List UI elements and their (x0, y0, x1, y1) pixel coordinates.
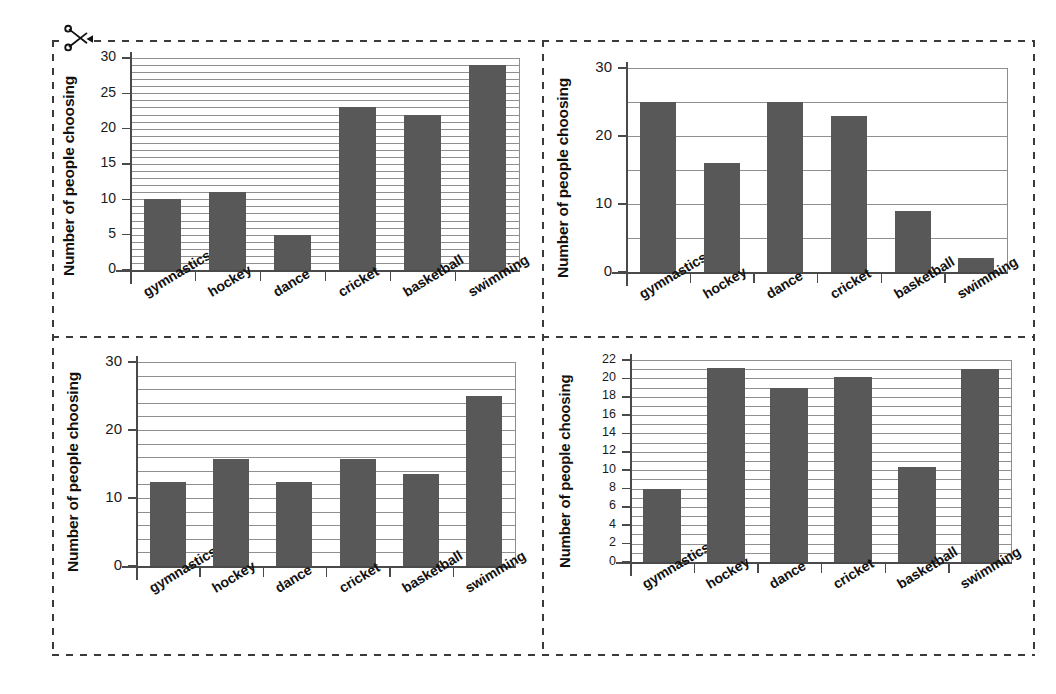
gridline (630, 544, 1012, 545)
gridline (130, 143, 520, 144)
y-axis-line (630, 354, 632, 576)
y-axis-label: Number of people choosing (554, 78, 572, 278)
bar (403, 474, 439, 566)
y-tick-mark (622, 561, 630, 563)
y-tick-label: 5 (86, 225, 116, 241)
gridline (130, 65, 520, 66)
bar (707, 368, 745, 562)
y-tick-mark (128, 565, 136, 567)
y-tick-mark (122, 234, 130, 236)
gridline (130, 171, 520, 172)
y-tick-label: 30 (582, 58, 612, 75)
gridline (130, 115, 520, 116)
y-tick-mark (122, 199, 130, 201)
gridline (130, 192, 520, 193)
y-tick-label: 0 (586, 554, 616, 568)
y-tick-label: 20 (92, 420, 122, 437)
gridline (136, 512, 516, 513)
x-tick-mark (325, 270, 326, 281)
y-axis-label: Number of people choosing (64, 372, 82, 572)
bar (898, 467, 936, 562)
gridline (630, 433, 1012, 434)
gridline (630, 397, 1012, 398)
worksheet-cut-frame: Number of people choosing051015202530gym… (52, 40, 1035, 656)
y-tick-label: 10 (582, 194, 612, 211)
y-tick-label: 16 (586, 407, 616, 421)
bar (276, 482, 312, 566)
y-tick-mark (122, 93, 130, 95)
bar (466, 396, 502, 566)
gridline (130, 213, 520, 214)
gridline (630, 369, 1012, 370)
gridline (130, 249, 520, 250)
gridline (630, 489, 1012, 490)
y-tick-label: 25 (86, 84, 116, 100)
bar (209, 192, 246, 270)
x-tick-mark (326, 566, 327, 577)
y-tick-mark (622, 414, 630, 416)
y-axis-label: Number of people choosing (556, 375, 573, 568)
x-tick-mark (757, 562, 758, 573)
bar (340, 459, 376, 566)
x-tick-mark (263, 566, 264, 577)
y-tick-mark (618, 135, 626, 137)
y-tick-mark (128, 497, 136, 499)
gridline (130, 185, 520, 186)
gridline (130, 221, 520, 222)
y-tick-label: 15 (86, 154, 116, 170)
gridline (130, 122, 520, 123)
gridline (130, 150, 520, 151)
bar (961, 369, 999, 562)
y-tick-mark (622, 451, 630, 453)
y-tick-mark (622, 488, 630, 490)
x-tick-mark (195, 270, 196, 281)
gridline (630, 507, 1012, 508)
gridline (630, 452, 1012, 453)
gridline (130, 136, 520, 137)
y-tick-mark (618, 203, 626, 205)
y-tick-mark (122, 269, 130, 271)
y-tick-label: 6 (586, 498, 616, 512)
x-tick-mark (694, 562, 695, 573)
y-axis-line (626, 62, 628, 286)
bar (770, 388, 808, 562)
y-tick-mark (622, 433, 630, 435)
bar (213, 459, 249, 566)
gridline (136, 362, 516, 363)
bar (767, 102, 803, 272)
chart-panel-bottom-right: Number of people choosing024681012141618… (544, 338, 1033, 654)
y-tick-mark (622, 524, 630, 526)
chart-bottom-left: Number of people choosing0102030gymnasti… (54, 338, 542, 654)
bar (643, 489, 681, 562)
gridline (130, 100, 520, 101)
gridline (136, 376, 516, 377)
chart-panel-bottom-left: Number of people choosing0102030gymnasti… (54, 338, 542, 654)
plot-area (136, 362, 516, 566)
gridline (130, 206, 520, 207)
gridline (136, 444, 516, 445)
x-tick-mark (690, 272, 691, 283)
x-tick-mark (885, 562, 886, 573)
x-tick-mark (199, 566, 200, 577)
y-tick-label: 10 (586, 462, 616, 476)
bar (404, 115, 441, 270)
chart-panel-top-left: Number of people choosing051015202530gym… (54, 42, 542, 336)
gridline (630, 388, 1012, 389)
gridline (130, 242, 520, 243)
y-tick-mark (622, 396, 630, 398)
scissors-icon (63, 24, 93, 54)
gridline (626, 238, 1008, 239)
chart-panel-top-right: Number of people choosing0102030gymnasti… (544, 42, 1033, 336)
y-tick-label: 2 (586, 535, 616, 549)
gridline (130, 178, 520, 179)
gridline (136, 457, 516, 458)
cut-line-right (1033, 40, 1035, 656)
gridline (630, 360, 1012, 361)
gridline (626, 102, 1008, 103)
x-tick-mark (453, 566, 454, 577)
x-tick-mark (455, 270, 456, 281)
y-tick-mark (122, 128, 130, 130)
bar (469, 65, 506, 270)
x-tick-mark (817, 272, 818, 283)
gridline (630, 479, 1012, 480)
